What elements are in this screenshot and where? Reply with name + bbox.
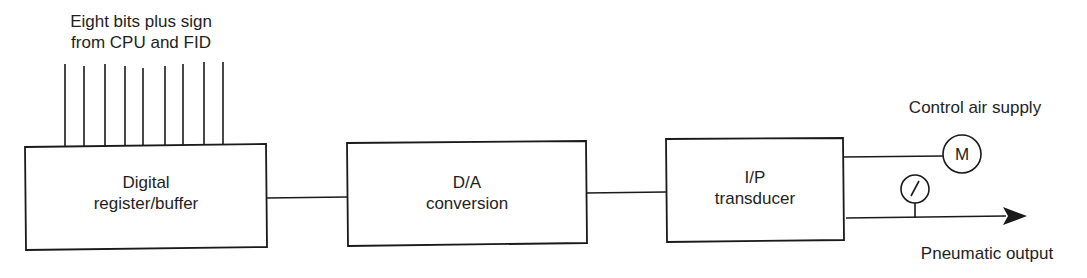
- block-label-line1: Digital: [26, 172, 266, 193]
- connector-dac-to-ip: [586, 192, 666, 193]
- connector-register-to-dac: [266, 197, 347, 198]
- dac-pneumatic-block-diagram: M Eight bits plus sign from CPU and FID …: [0, 0, 1087, 278]
- block-label-line1: D/A: [347, 172, 587, 193]
- pneumatic-output-line: [846, 216, 1006, 218]
- input-label: Eight bits plus sign from CPU and FID: [38, 11, 244, 53]
- supply-symbol-letter: M: [955, 145, 969, 164]
- da-conversion-label: D/A conversion: [347, 172, 587, 214]
- ip-transducer-label: I/P transducer: [666, 167, 844, 209]
- control-air-supply-label: Control air supply: [880, 97, 1070, 118]
- input-bit-lines: [65, 62, 223, 147]
- block-label-line2: conversion: [347, 193, 587, 214]
- block-label-line2: transducer: [666, 188, 844, 209]
- pneumatic-output-label: Pneumatic output: [896, 243, 1078, 264]
- input-label-line1: Eight bits plus sign: [38, 11, 244, 32]
- block-label-line1: I/P: [666, 167, 844, 188]
- pressure-gauge-icon: [901, 175, 929, 218]
- digital-register-label: Digital register/buffer: [26, 172, 266, 214]
- input-label-line2: from CPU and FID: [38, 32, 244, 53]
- control-air-supply-line: [843, 156, 943, 157]
- block-label-line2: register/buffer: [26, 193, 266, 214]
- output-arrowhead-icon: [1003, 207, 1027, 225]
